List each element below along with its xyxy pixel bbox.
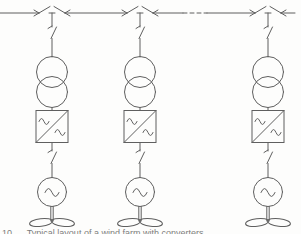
disconnector-icon [264, 26, 273, 39]
wind-farm-single-line-diagram: 10 Typical layout of a wind farm with co… [0, 0, 301, 234]
generator-icon [126, 178, 155, 207]
disconnector-icon [48, 26, 57, 39]
transformer-icon [37, 57, 68, 108]
ac-wave-icon [133, 189, 147, 197]
rotor-blade-left [117, 217, 141, 227]
figure-caption: 10 Typical layout of a wind farm with co… [2, 228, 203, 234]
transformer-icon [253, 57, 284, 108]
frequency-converter-icon [36, 111, 68, 143]
frequency-converter-icon [124, 111, 156, 143]
rotor-blade-left [29, 217, 53, 227]
turbine-string-2 [117, 13, 163, 228]
ac-wave-icon [143, 130, 153, 136]
diagram-canvas [0, 0, 301, 234]
rotor-blade-left [245, 217, 269, 227]
turbine-string-3 [245, 13, 291, 228]
rotor-blade-right [51, 217, 75, 227]
disconnector-icon [136, 26, 145, 39]
generator-icon [254, 178, 283, 207]
turbine-string-1 [29, 13, 75, 228]
ac-wave-icon [261, 189, 275, 197]
frequency-converter-icon [252, 111, 284, 143]
turbine-rotor-icon [117, 207, 163, 228]
generator-icon [38, 178, 67, 207]
ac-wave-icon [55, 130, 65, 136]
rotor-blade-right [139, 217, 163, 227]
ac-wave-icon [271, 130, 281, 136]
transformer-icon [125, 57, 156, 108]
collector-bus [0, 7, 295, 17]
disconnector-icon-2 [136, 150, 145, 164]
turbine-rotor-icon [29, 207, 75, 228]
disconnector-icon-2 [264, 150, 273, 164]
turbine-rotor-icon [245, 207, 291, 228]
ac-wave-icon [127, 119, 137, 125]
rotor-blade-right [267, 217, 291, 227]
ac-wave-icon [39, 119, 49, 125]
disconnector-icon-2 [48, 150, 57, 164]
ac-wave-icon [255, 119, 265, 125]
ac-wave-icon [45, 189, 59, 197]
